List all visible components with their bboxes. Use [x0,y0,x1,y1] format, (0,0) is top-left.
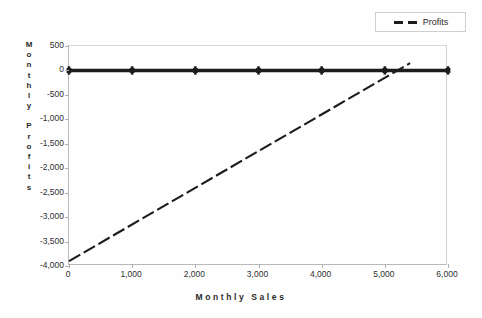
x-axis-tick-label: 0 [66,269,71,279]
y-axis-tick-label: -1,500 [40,138,64,147]
x-axis-tick-mark [132,264,133,268]
data-point-marker-cross [193,66,198,74]
y-axis-tick-label: -3,000 [40,212,64,221]
data-point-marker-cross [446,66,451,74]
y-axis-tick-label: -1,000 [40,114,64,123]
x-axis-tick-mark [385,264,386,268]
x-axis-tick-mark [322,264,323,268]
data-point-marker-cross [382,66,387,74]
legend-item-profits: Profits [393,18,449,27]
x-axis-tick-mark [69,264,70,268]
y-axis-tick-label: 500 [50,41,64,50]
x-axis-tick-mark [448,264,449,268]
x-axis-tick-label: 4,000 [310,269,331,279]
plot-area [68,45,447,265]
y-axis-tick-mark [65,168,69,169]
y-axis-tick-mark [65,144,69,145]
dashed-line-swatch-icon [393,18,421,27]
series-line-profits [69,63,410,261]
x-axis-tick-label: 2,000 [184,269,205,279]
x-axis-title: Monthly Sales [0,292,482,302]
legend-item-label: Profits [423,18,449,27]
y-axis-tick-label: 0 [59,65,64,74]
data-point-marker-cross [256,66,261,74]
data-point-marker-cross [319,66,324,74]
y-axis-tick-mark [65,193,69,194]
x-axis-tick-label: 3,000 [247,269,268,279]
x-axis-tick-label: 5,000 [373,269,394,279]
y-axis-tick-label: -4,000 [40,261,64,270]
y-axis-tick-label: -500 [47,89,64,98]
y-axis-tick-mark [65,119,69,120]
x-axis-tick-mark [195,264,196,268]
x-axis-tick-labels: 01,0002,0003,0004,0005,0006,000 [68,269,447,283]
y-axis-tick-labels: 5000-500-1,000-1,500-2,000-2,500-3,000-3… [28,45,64,265]
chart-figure: Profits MonthlyProfits 5000-500-1,000-1,… [0,0,482,318]
y-axis-tick-mark [65,46,69,47]
x-axis-tick-label: 6,000 [436,269,457,279]
data-point-marker-cross [130,66,135,74]
x-axis-tick-label: 1,000 [121,269,142,279]
y-axis-tick-mark [65,217,69,218]
chart-legend: Profits [375,12,466,32]
y-axis-tick-mark [65,70,69,71]
y-axis-tick-label: -3,500 [40,236,64,245]
y-axis-tick-mark [65,242,69,243]
y-axis-tick-mark [65,95,69,96]
x-axis-tick-mark [259,264,260,268]
y-axis-tick-label: -2,000 [40,163,64,172]
y-axis-tick-label: -2,500 [40,187,64,196]
data-series-layer [69,46,448,266]
